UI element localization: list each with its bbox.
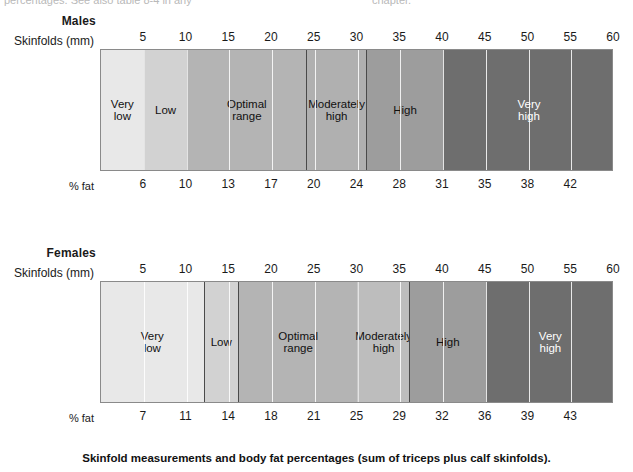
tick-label-skinfold: 45 — [470, 30, 500, 44]
band-label: Very low — [111, 98, 134, 123]
tick-label-skinfold: 30 — [342, 30, 372, 44]
gridline — [571, 282, 572, 402]
gridline — [400, 282, 401, 402]
tick-label-skinfold: 10 — [171, 262, 201, 276]
band-label: Very high — [539, 330, 562, 355]
axis-label-skinfolds-females: Skinfolds (mm) — [0, 266, 94, 280]
band-segment: High — [366, 50, 443, 170]
fat-value-label: 25 — [342, 409, 372, 423]
band-segment: Low — [144, 50, 187, 170]
fat-value-label: 38 — [513, 177, 543, 191]
tick-label-skinfold: 20 — [256, 262, 286, 276]
band-segment: Optimal range — [187, 50, 307, 170]
gridline — [529, 282, 530, 402]
tick-label-skinfold: 50 — [513, 30, 543, 44]
band-label: Optimal range — [227, 98, 267, 123]
tick-label-skinfold: 55 — [555, 262, 585, 276]
fat-value-label: 21 — [299, 409, 329, 423]
gridline — [229, 282, 230, 402]
tick-label-skinfold: 10 — [171, 30, 201, 44]
clipped-body-text-left: percentages. See also table 8-4 in any — [4, 0, 192, 6]
tick-label-skinfold: 30 — [342, 262, 372, 276]
gridline — [187, 50, 188, 170]
clipped-body-text: percentages. See also table 8-4 in any c… — [0, 0, 633, 6]
tick-label-skinfold: 15 — [213, 30, 243, 44]
band-segment: Very low — [101, 282, 204, 402]
gridline — [529, 50, 530, 170]
gridline — [358, 50, 359, 170]
tick-label-skinfold: 40 — [427, 30, 457, 44]
band-segment: Very low — [101, 50, 144, 170]
tick-label-skinfold: 25 — [299, 262, 329, 276]
skinfold-body-fat-figure: percentages. See also table 8-4 in any c… — [0, 0, 633, 472]
band-label: High — [436, 336, 460, 349]
tick-label-skinfold: 60 — [598, 262, 628, 276]
panel-title-males: Males — [0, 14, 96, 28]
figure-caption: Skinfold measurements and body fat perce… — [0, 452, 633, 464]
gridline — [229, 50, 230, 170]
gridline — [400, 50, 401, 170]
gridline — [272, 50, 273, 170]
fat-value-label: 39 — [513, 409, 543, 423]
gridline — [358, 282, 359, 402]
fat-value-label: 36 — [470, 409, 500, 423]
tick-label-skinfold: 40 — [427, 262, 457, 276]
band-label: Moderately high — [308, 98, 365, 123]
axis-label-skinfolds-males: Skinfolds (mm) — [0, 34, 94, 48]
fat-value-label: 10 — [171, 177, 201, 191]
fat-value-label: 42 — [555, 177, 585, 191]
band-segment: Optimal range — [238, 282, 358, 402]
gridline — [571, 50, 572, 170]
clipped-body-text-right: chapter. — [372, 0, 411, 6]
fat-value-label: 28 — [384, 177, 414, 191]
band-label: Optimal range — [278, 330, 318, 355]
fat-value-label: 31 — [427, 177, 457, 191]
tick-label-skinfold: 15 — [213, 262, 243, 276]
gridline — [144, 50, 145, 170]
fat-value-label: 17 — [256, 177, 286, 191]
axis-label-fat-females: % fat — [0, 412, 94, 424]
tick-label-skinfold: 20 — [256, 30, 286, 44]
band-segment: Very high — [486, 282, 613, 402]
gridline — [443, 282, 444, 402]
fat-value-label: 29 — [384, 409, 414, 423]
tick-label-skinfold: 45 — [470, 262, 500, 276]
band-segment: Low — [204, 282, 238, 402]
fat-value-label: 7 — [128, 409, 158, 423]
fat-value-label: 6 — [128, 177, 158, 191]
gridline — [187, 282, 188, 402]
fat-value-label: 11 — [171, 409, 201, 423]
band-bar-males: Very lowLowOptimal rangeModerately highH… — [100, 49, 613, 171]
fat-value-label: 35 — [470, 177, 500, 191]
fat-value-label: 18 — [256, 409, 286, 423]
tick-label-skinfold: 5 — [128, 30, 158, 44]
tick-label-skinfold: 35 — [384, 262, 414, 276]
tick-label-skinfold: 50 — [513, 262, 543, 276]
fat-value-label: 13 — [213, 177, 243, 191]
tick-label-skinfold: 25 — [299, 30, 329, 44]
band-label: Moderately high — [355, 330, 412, 355]
tick-label-skinfold: 5 — [128, 262, 158, 276]
gridline — [443, 50, 444, 170]
axis-label-fat-males: % fat — [0, 180, 94, 192]
fat-value-label: 14 — [213, 409, 243, 423]
band-bar-females: Very lowLowOptimal rangeModerately highH… — [100, 281, 613, 403]
gridline — [315, 50, 316, 170]
band-label: High — [393, 104, 417, 117]
tick-label-skinfold: 55 — [555, 30, 585, 44]
gridline — [272, 282, 273, 402]
band-segment: High — [409, 282, 486, 402]
tick-label-skinfold: 35 — [384, 30, 414, 44]
gridline — [486, 50, 487, 170]
fat-value-label: 24 — [342, 177, 372, 191]
gridline — [486, 282, 487, 402]
fat-value-label: 43 — [555, 409, 585, 423]
fat-value-label: 32 — [427, 409, 457, 423]
band-label: Low — [155, 104, 176, 117]
tick-label-skinfold: 60 — [598, 30, 628, 44]
fat-value-label: 20 — [299, 177, 329, 191]
gridline — [144, 282, 145, 402]
gridline — [315, 282, 316, 402]
panel-title-females: Females — [0, 246, 96, 260]
